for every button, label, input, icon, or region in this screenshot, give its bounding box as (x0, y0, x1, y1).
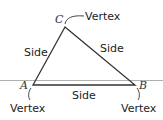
side-label-ab: Side (72, 89, 96, 102)
vertex-label-c: C (55, 13, 64, 26)
side-label-ac: Side (24, 46, 48, 59)
vertex-callout-c: Vertex (85, 10, 121, 23)
vertex-callout-a: Vertex (10, 102, 46, 115)
triangle-shape (33, 27, 135, 85)
callout-line-c (65, 16, 84, 24)
triangle-diagram: C A B Vertex Vertex Vertex Side Side Sid… (0, 0, 163, 120)
side-label-cb: Side (100, 42, 124, 55)
vertex-callout-b: Vertex (121, 102, 157, 115)
callout-line-a (29, 88, 31, 100)
vertex-label-a: A (19, 79, 28, 92)
vertex-label-b: B (138, 79, 147, 92)
